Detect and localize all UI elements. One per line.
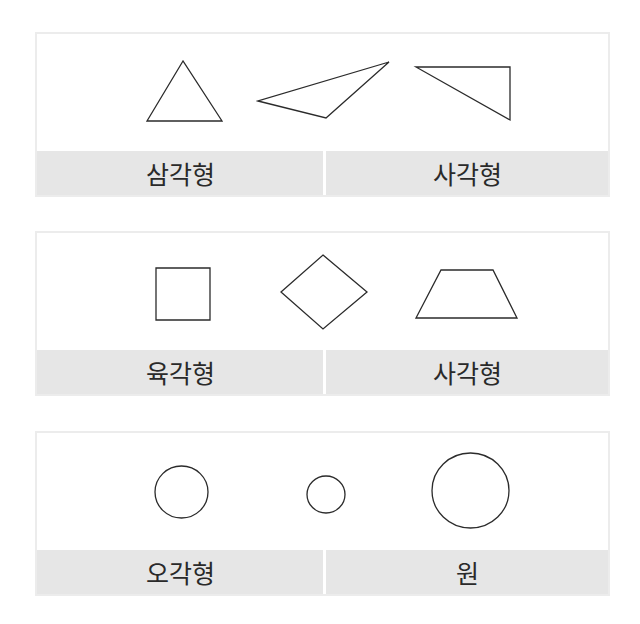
square-shape [156,268,210,320]
circle-medium-shape [155,466,208,518]
diamond-shape [281,255,367,329]
label-left: 삼각형 [37,151,326,195]
label-right: 사각형 [326,151,608,195]
label-right: 사각형 [326,350,608,394]
circle-small-shape [307,476,345,513]
label-left: 오각형 [37,550,326,594]
circle-large-shape [432,453,509,528]
label-right: 원 [326,550,608,594]
panel-circles: 오각형 원 [35,431,610,596]
label-band: 삼각형 사각형 [37,151,608,195]
label-band: 육각형 사각형 [37,350,608,394]
equilateral-triangle-shape [147,61,222,121]
panel-triangles: 삼각형 사각형 [35,32,610,197]
label-band: 오각형 원 [37,550,608,594]
right-triangle-shape [416,67,510,120]
trapezoid-shape [416,270,517,318]
panel-quadrilaterals: 육각형 사각형 [35,231,610,396]
label-left: 육각형 [37,350,326,394]
obtuse-triangle-shape [258,62,389,118]
